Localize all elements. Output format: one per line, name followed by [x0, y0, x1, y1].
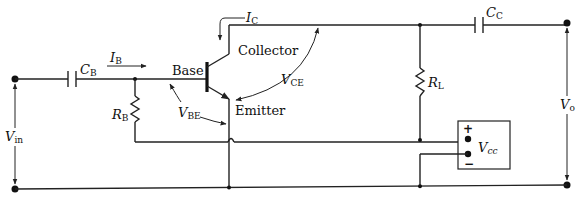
npn-transistor [207, 25, 229, 189]
svg-text:RB: RB [111, 107, 129, 123]
svg-text:IB: IB [109, 50, 122, 66]
junction-emitter-ground [227, 186, 231, 190]
junction-rl-bottom [418, 138, 422, 142]
capacitor-cc [475, 17, 483, 33]
vce-arrow [236, 28, 318, 100]
ic-arrow [220, 18, 245, 40]
vbe-arrow-top [170, 84, 181, 102]
base-label: Base [172, 63, 204, 78]
capacitor-cb [68, 71, 76, 87]
junction-vcc-ground [418, 184, 422, 188]
vcc-minus-sign: − [464, 157, 474, 171]
svg-text:VBE: VBE [178, 105, 201, 121]
collector-label: Collector [238, 43, 299, 58]
vcc-plus-sign: + [463, 122, 473, 136]
svg-text:CB: CB [80, 62, 97, 78]
transistor-amplifier-diagram: CB IB Base RB IC Collector Emitter VCE V… [0, 0, 577, 198]
cc-label: C [486, 5, 496, 20]
svg-text:VCE: VCE [281, 72, 304, 88]
resistor-rl [416, 25, 424, 140]
svg-text:RL: RL [427, 75, 444, 91]
rl-label: R [427, 75, 438, 90]
rb-label: R [111, 107, 122, 122]
resistor-rb [131, 79, 139, 142]
vbe-arrow-bottom [200, 117, 226, 124]
cb-label: C [80, 62, 90, 77]
svg-text:CC: CC [486, 5, 503, 21]
emitter-label: Emitter [235, 103, 286, 118]
svg-text:IC: IC [245, 10, 258, 26]
output-terminal-top [564, 20, 571, 27]
